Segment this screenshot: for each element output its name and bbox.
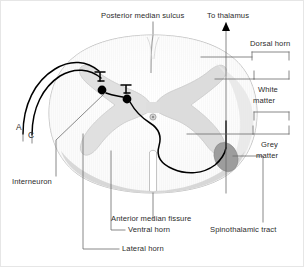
first-order-neuron-cell-body (98, 86, 107, 95)
second-order-neuron-cell-body (123, 95, 132, 104)
label-fiber-a: A (16, 123, 22, 132)
label-white-matter-line2: matter (253, 96, 275, 105)
label-ventral-horn: Ventral horn (128, 225, 170, 234)
spinal-cord-diagram: Posterior median sulcus To thalamus Dors… (0, 0, 304, 267)
label-grey-matter-line2: matter (256, 151, 278, 160)
label-white-matter-line1: White (258, 85, 278, 94)
label-spinothalamic-tract: Spinothalamic tract (210, 225, 276, 234)
label-fiber-c: C (28, 131, 34, 140)
label-anterior-median-fissure: Anterior median fissure (111, 214, 191, 223)
label-dorsal-horn: Dorsal horn (250, 39, 290, 48)
label-posterior-median-sulcus: Posterior median sulcus (101, 11, 184, 20)
anterior-median-fissure-cleft (150, 150, 157, 193)
label-interneuron: Interneuron (12, 177, 52, 186)
label-to-thalamus: To thalamus (207, 11, 249, 20)
label-grey-matter-line1: Grey (261, 140, 278, 149)
label-lateral-horn: Lateral horn (122, 244, 164, 253)
to-thalamus-arrowhead (222, 22, 230, 31)
